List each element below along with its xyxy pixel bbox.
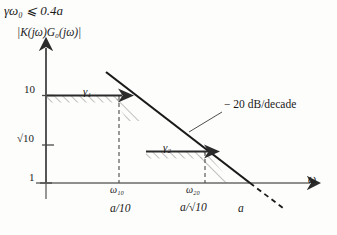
x-tick-label-a: a	[238, 203, 244, 215]
x-tick-upper-omega10: ω₁₀	[110, 185, 124, 195]
y-tick-label-sqrt10: √10	[17, 133, 34, 144]
condition-text: γω₀ ⩽ 0.4a	[4, 4, 63, 17]
x-tick-label-a-over-10: a/10	[110, 203, 130, 215]
y-tick-label-10: 10	[24, 84, 35, 95]
figure-container: γω₀ ⩽ 0.4a |K(jω)G₀(jω)| 10 √10 1 ω₁₀ a/…	[0, 0, 337, 235]
gamma2-hatch-region	[115, 95, 232, 183]
x-axis-label: ω	[308, 174, 316, 186]
y-axis-label: |K(jω)G₀(jω)|	[17, 27, 81, 39]
slope-annotation-leader	[189, 112, 222, 132]
slope-annotation-label: − 20 dB/decade	[224, 99, 296, 111]
asymptote-line	[106, 72, 250, 183]
x-tick-label-a-over-sqrt10: a/√10	[180, 202, 207, 214]
y-tick-label-1: 1	[29, 172, 35, 183]
gamma1-label: γ₁	[83, 86, 91, 97]
gamma2-label: γ₂	[163, 142, 171, 153]
x-tick-upper-omega20: ω₂₀	[186, 185, 200, 195]
asymptote-dashed-extension	[250, 183, 283, 208]
